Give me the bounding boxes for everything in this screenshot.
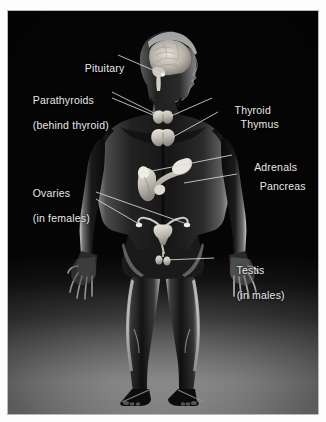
- figure-mount: Pituitary Parathyroids (behind thyroid) …: [0, 0, 326, 422]
- leader-thymus: [173, 112, 218, 137]
- label-thymus-text: Thymus: [241, 118, 280, 130]
- label-pituitary-text: Pituitary: [85, 62, 125, 74]
- label-ovaries: Ovaries (in females): [14, 174, 90, 237]
- leader-thyroid: [171, 98, 212, 116]
- leader-ovary-left: [96, 199, 139, 224]
- label-ovaries-subtext: (in females): [33, 212, 90, 224]
- anatomy-photo-plate: Pituitary Parathyroids (behind thyroid) …: [8, 11, 318, 414]
- leader-parathyroids-2: [112, 98, 158, 117]
- label-testis-subtext: (in males): [237, 289, 285, 301]
- label-thymus: Thymus: [222, 105, 279, 143]
- label-parathyroids-text: Parathyroids: [33, 94, 94, 106]
- leader-parathyroids-1: [112, 92, 158, 115]
- label-testis-text: Testis: [237, 264, 265, 276]
- leader-ovary-right: [96, 192, 187, 224]
- label-pancreas: Pancreas: [241, 167, 306, 205]
- label-ovaries-text: Ovaries: [33, 187, 71, 199]
- leader-pancreas: [184, 174, 237, 183]
- leader-adrenals: [152, 155, 232, 171]
- label-pancreas-text: Pancreas: [260, 180, 306, 192]
- label-parathyroids-subtext: (behind thyroid): [33, 119, 109, 131]
- leader-testis: [165, 258, 214, 260]
- label-testis: Testis (in males): [218, 251, 285, 314]
- label-parathyroids: Parathyroids (behind thyroid): [14, 81, 109, 144]
